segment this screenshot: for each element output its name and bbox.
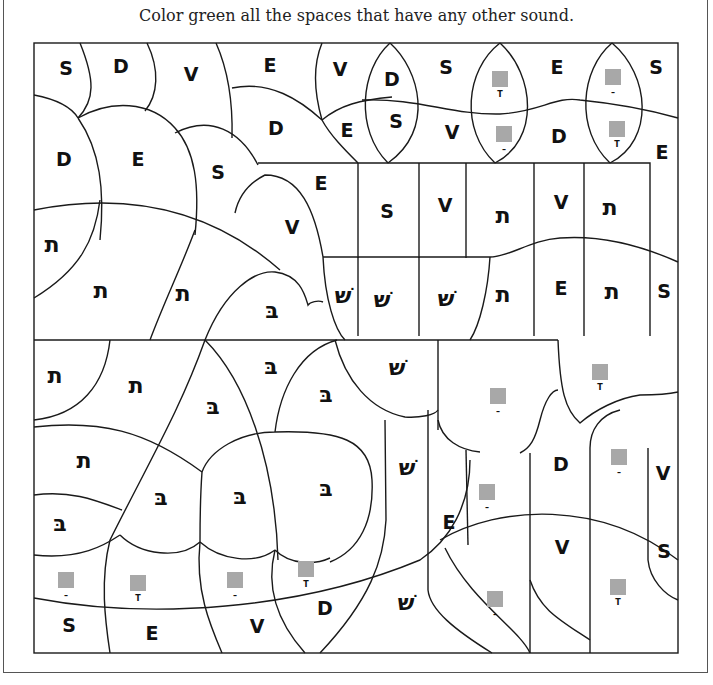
puzzle-region[interactable]: T bbox=[130, 575, 146, 603]
puzzle-region[interactable]: T bbox=[609, 121, 625, 149]
puzzle-region[interactable]: V bbox=[333, 58, 348, 80]
puzzle-region[interactable]: ת bbox=[128, 373, 143, 398]
puzzle-region[interactable]: S bbox=[649, 56, 663, 78]
puzzle-region[interactable]: D bbox=[553, 453, 569, 475]
puzzle-region[interactable]: שׁ bbox=[438, 286, 457, 311]
puzzle-region[interactable]: S bbox=[62, 614, 76, 636]
vowel-mark-patach: – bbox=[617, 468, 621, 477]
puzzle-region[interactable]: ת bbox=[604, 279, 619, 304]
puzzle-region[interactable]: D bbox=[56, 148, 72, 170]
puzzle-region[interactable]: ת bbox=[495, 203, 510, 228]
puzzle-region[interactable]: – bbox=[227, 572, 243, 600]
letter-placeholder-square bbox=[227, 572, 243, 588]
vowel-mark-patach: – bbox=[502, 145, 506, 154]
puzzle-region[interactable]: V bbox=[250, 615, 265, 637]
region-letter-E: E bbox=[146, 622, 159, 644]
puzzle-region[interactable]: ת bbox=[93, 278, 108, 303]
puzzle-region[interactable]: V bbox=[285, 216, 300, 238]
puzzle-region[interactable]: בּ bbox=[264, 354, 277, 379]
puzzle-region[interactable]: D bbox=[268, 117, 284, 139]
puzzle-region[interactable]: – bbox=[496, 126, 512, 154]
region-letter-tav: ת bbox=[93, 278, 108, 303]
puzzle-region[interactable]: בּ bbox=[53, 511, 66, 536]
puzzle-outlines bbox=[34, 43, 678, 653]
puzzle-region[interactable]: S bbox=[380, 200, 394, 222]
puzzle-region[interactable]: – bbox=[611, 449, 627, 477]
puzzle-region[interactable]: ת bbox=[76, 448, 91, 473]
region-letter-tav: ת bbox=[495, 282, 510, 307]
puzzle-region[interactable]: – bbox=[605, 69, 621, 97]
letter-placeholder-square bbox=[479, 484, 495, 500]
puzzle-region[interactable]: E bbox=[132, 148, 145, 170]
puzzle-region[interactable]: E bbox=[555, 277, 568, 299]
region-boundary bbox=[34, 460, 470, 609]
puzzle-region[interactable]: T bbox=[592, 364, 608, 392]
puzzle-region[interactable]: בּ bbox=[265, 298, 278, 323]
puzzle-region[interactable]: בּ bbox=[206, 394, 219, 419]
region-letter-E: E bbox=[315, 172, 328, 194]
puzzle-region[interactable]: – bbox=[490, 388, 506, 416]
region-boundary bbox=[202, 432, 372, 562]
puzzle-region[interactable]: S bbox=[59, 57, 73, 79]
puzzle-region[interactable]: E bbox=[443, 511, 456, 533]
region-boundary bbox=[590, 410, 620, 448]
puzzle-region[interactable]: D bbox=[551, 125, 567, 147]
region-letter-V: V bbox=[555, 536, 570, 558]
letter-placeholder-square bbox=[611, 449, 627, 465]
puzzle-region[interactable]: ת bbox=[44, 232, 59, 257]
puzzle-region[interactable]: ת bbox=[495, 282, 510, 307]
vowel-mark-kamatz: T bbox=[597, 383, 603, 392]
puzzle-region[interactable]: בּ bbox=[233, 484, 246, 509]
region-letter-S: S bbox=[380, 200, 394, 222]
puzzle-region[interactable]: – bbox=[487, 591, 503, 619]
puzzle-region[interactable]: S bbox=[657, 280, 671, 302]
puzzle-region[interactable]: E bbox=[341, 119, 354, 141]
puzzle-region[interactable]: שׁ bbox=[335, 283, 354, 308]
puzzle-region[interactable]: V bbox=[438, 194, 453, 216]
puzzle-region[interactable]: שׁ bbox=[389, 355, 408, 380]
puzzle-region[interactable]: ת bbox=[602, 195, 617, 220]
puzzle-region[interactable]: D bbox=[317, 597, 333, 619]
puzzle-region[interactable]: V bbox=[445, 121, 460, 143]
puzzle-region[interactable]: ת bbox=[47, 363, 62, 388]
region-letter-bet: בּ bbox=[206, 394, 219, 419]
puzzle-region[interactable]: בּ bbox=[154, 485, 167, 510]
puzzle-region[interactable]: שׁ bbox=[374, 287, 393, 312]
puzzle-region[interactable]: S bbox=[211, 161, 225, 183]
region-letter-E: E bbox=[555, 277, 568, 299]
puzzle-region[interactable]: שׁ bbox=[398, 590, 417, 615]
puzzle-region[interactable]: V bbox=[555, 536, 570, 558]
puzzle-region[interactable]: E bbox=[315, 172, 328, 194]
puzzle-region[interactable]: T bbox=[298, 561, 314, 589]
letter-placeholder-square bbox=[298, 561, 314, 577]
region-boundary bbox=[104, 540, 110, 653]
puzzle-region[interactable]: שׁ bbox=[399, 455, 418, 480]
puzzle-region[interactable]: S bbox=[657, 540, 671, 562]
puzzle-region[interactable]: D bbox=[384, 68, 400, 90]
region-letter-D: D bbox=[268, 117, 284, 139]
region-boundary bbox=[110, 340, 205, 540]
puzzle-region[interactable]: D bbox=[113, 55, 129, 77]
puzzle-region[interactable]: בּ bbox=[319, 382, 332, 407]
puzzle-region[interactable]: E bbox=[146, 622, 159, 644]
puzzle-region[interactable]: T bbox=[492, 71, 508, 99]
puzzle-region[interactable]: – bbox=[58, 572, 74, 600]
vowel-mark-patach: – bbox=[233, 591, 237, 600]
region-letter-V: V bbox=[184, 63, 199, 85]
puzzle-region[interactable]: – bbox=[479, 484, 495, 512]
puzzle-region[interactable]: E bbox=[264, 54, 277, 76]
puzzle-region[interactable]: V bbox=[184, 63, 199, 85]
region-letter-E: E bbox=[132, 148, 145, 170]
puzzle-region[interactable]: V bbox=[656, 462, 671, 484]
puzzle-border bbox=[34, 43, 678, 653]
puzzle-region[interactable]: E bbox=[656, 141, 669, 163]
puzzle-region[interactable]: E bbox=[551, 56, 564, 78]
puzzle-region[interactable]: בּ bbox=[319, 476, 332, 501]
puzzle-region[interactable]: V bbox=[554, 191, 569, 213]
region-letter-D: D bbox=[553, 453, 569, 475]
puzzle-region[interactable]: T bbox=[610, 579, 626, 607]
puzzle-region[interactable]: S bbox=[439, 56, 453, 78]
puzzle-region[interactable]: S bbox=[389, 110, 403, 132]
region-letter-V: V bbox=[656, 462, 671, 484]
puzzle-region[interactable]: ת bbox=[175, 281, 190, 306]
